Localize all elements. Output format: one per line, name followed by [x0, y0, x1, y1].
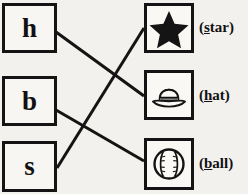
star-icon — [147, 6, 191, 50]
connector-h-to-hat[interactable] — [56, 32, 144, 96]
label-hat: (hat) — [199, 88, 230, 103]
picture-box-star[interactable] — [144, 3, 194, 53]
hat-icon — [147, 73, 191, 117]
letter-h: h — [22, 15, 37, 42]
connector-b-to-ball[interactable] — [56, 110, 144, 161]
letter-b: b — [22, 88, 37, 115]
connector-s-to-star[interactable] — [57, 28, 144, 168]
label-hat-rest: at — [212, 87, 225, 103]
picture-box-ball[interactable] — [144, 138, 194, 190]
label-star: (star) — [199, 20, 234, 35]
picture-box-hat[interactable] — [144, 70, 194, 120]
letter-box-s[interactable]: s — [2, 141, 57, 192]
label-star-rest: tar — [210, 19, 229, 35]
letter-box-h[interactable]: h — [2, 3, 57, 53]
label-star-close: ) — [229, 19, 234, 35]
label-hat-close: ) — [225, 87, 230, 103]
label-ball: (ball) — [199, 156, 233, 171]
letter-s: s — [24, 153, 35, 180]
label-ball-rest: all — [212, 155, 228, 171]
label-ball-close: ) — [228, 155, 233, 171]
worksheet-canvas: h b s (star) — [0, 0, 248, 194]
baseball-icon — [147, 141, 191, 187]
letter-box-b[interactable]: b — [2, 76, 57, 126]
